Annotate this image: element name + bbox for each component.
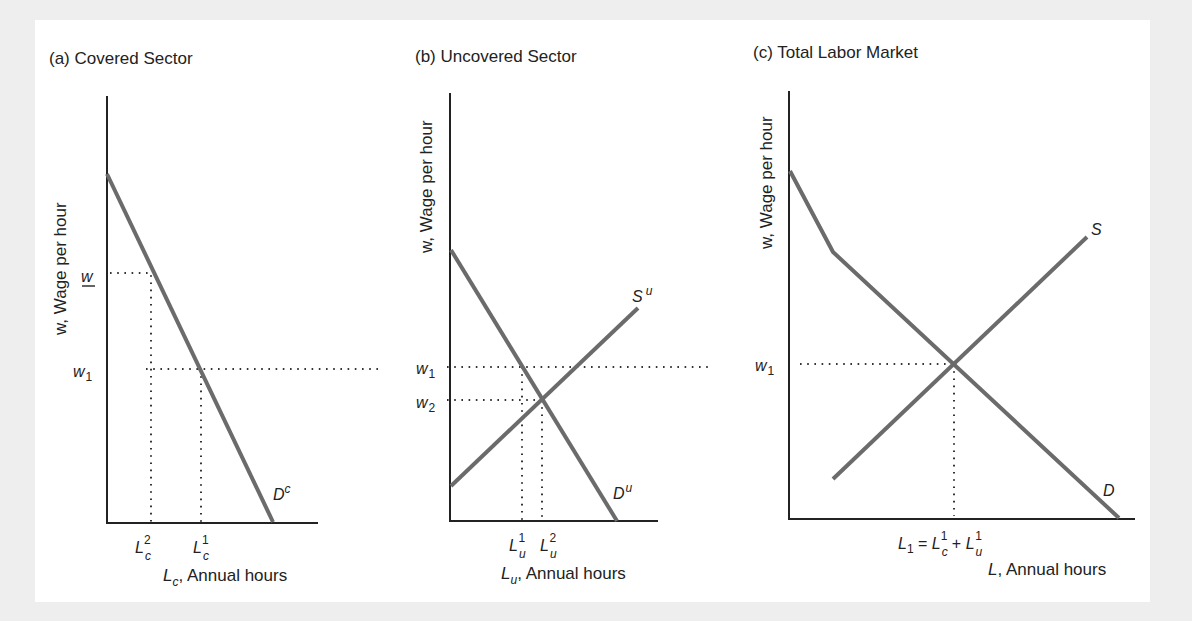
panel-covered-sector: (a) Covered Sector w, Wage per hour w w1… bbox=[49, 49, 378, 589]
supply-label-total: S bbox=[1091, 221, 1102, 238]
x-axis-label: Lc, Annual hours bbox=[163, 566, 287, 589]
y-axis-label: w, Wage per hour bbox=[417, 120, 436, 254]
y-axis-label: w, Wage per hour bbox=[51, 202, 70, 336]
supply-label-uncovered: Su bbox=[632, 284, 653, 305]
axes bbox=[789, 91, 1135, 519]
demand-label-uncovered: Du bbox=[613, 481, 633, 502]
demand-curve-covered bbox=[107, 174, 273, 522]
panel-total-labor-market: (c) Total Labor Market w, Wage per hour … bbox=[753, 43, 1135, 579]
supply-curve-uncovered bbox=[451, 308, 638, 486]
demand-curve-uncovered bbox=[451, 250, 617, 521]
w1-label: w1 bbox=[416, 360, 436, 381]
lc2-label: Lc2 bbox=[135, 533, 151, 563]
labor-market-figure: (a) Covered Sector w, Wage per hour w w1… bbox=[0, 0, 1192, 621]
panel-title: (b) Uncovered Sector bbox=[415, 47, 577, 66]
l1-label: L1 = Lc1 + Lu1 bbox=[898, 529, 983, 559]
lu2-label: Lu2 bbox=[540, 531, 557, 561]
w1-label: w1 bbox=[73, 363, 93, 384]
supply-curve-total bbox=[833, 237, 1087, 479]
panel-uncovered-sector: (b) Uncovered Sector w, Wage per hour Su… bbox=[415, 47, 712, 587]
x-axis-label: L, Annual hours bbox=[988, 560, 1106, 579]
x-axis-label: Lu, Annual hours bbox=[501, 564, 626, 587]
lu1-label: Lu1 bbox=[509, 531, 526, 561]
panel-title: (a) Covered Sector bbox=[49, 49, 193, 68]
min-wage-guide bbox=[110, 273, 151, 522]
panel-title: (c) Total Labor Market bbox=[753, 43, 918, 62]
demand-label-total: D bbox=[1103, 482, 1115, 499]
w2-label: w2 bbox=[416, 394, 436, 415]
w1-label: w1 bbox=[755, 357, 775, 378]
demand-label-covered: Dc bbox=[273, 482, 291, 503]
lc1-label: Lc1 bbox=[193, 533, 209, 563]
y-axis-label: w, Wage per hour bbox=[757, 116, 776, 250]
axes bbox=[107, 96, 318, 523]
min-wage-label: w bbox=[81, 268, 94, 285]
